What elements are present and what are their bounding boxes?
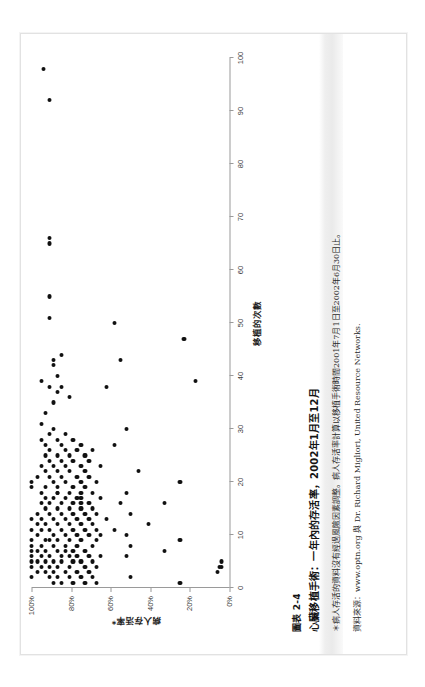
figure-number: 圖表 2-4 — [289, 60, 302, 632]
data-point — [39, 544, 43, 548]
data-point — [70, 501, 74, 505]
data-point — [90, 544, 94, 548]
data-point — [43, 443, 47, 447]
data-point — [47, 528, 51, 532]
data-point — [70, 459, 74, 463]
y-tick — [189, 588, 190, 592]
data-point — [29, 528, 33, 532]
data-point — [43, 506, 47, 510]
figure-title: 心臟移植手術：一年內的存活率，2002年1月至12月 — [305, 60, 320, 632]
data-point — [59, 512, 63, 516]
data-point — [177, 538, 181, 542]
data-point — [63, 544, 67, 548]
data-point — [78, 464, 82, 468]
data-point — [82, 549, 86, 553]
data-point — [78, 491, 82, 495]
data-point — [55, 549, 59, 553]
data-point — [104, 517, 108, 521]
data-point — [74, 475, 78, 479]
data-point — [55, 438, 59, 442]
y-tick-label: 0% — [225, 596, 234, 607]
data-point — [90, 491, 94, 495]
data-point — [39, 528, 43, 532]
data-point — [78, 480, 82, 484]
x-tick — [229, 269, 233, 270]
data-point — [74, 544, 78, 548]
data-point — [47, 385, 51, 389]
y-tick-label: 100% — [27, 596, 36, 615]
x-tick-label: 90 — [235, 107, 244, 115]
data-point — [43, 549, 47, 553]
data-point — [51, 400, 55, 404]
data-point — [78, 496, 82, 500]
data-point — [86, 570, 90, 574]
data-point — [35, 570, 39, 574]
data-point — [219, 559, 223, 563]
data-point — [55, 374, 59, 378]
data-point — [70, 512, 74, 516]
x-axis-title: 移植的次數 — [249, 58, 261, 588]
x-tick-label: 70 — [235, 213, 244, 221]
x-tick-label: 80 — [235, 160, 244, 168]
data-point — [29, 559, 33, 563]
data-point — [39, 501, 43, 505]
data-point — [39, 422, 43, 426]
data-point — [78, 501, 82, 505]
x-tick-label: 20 — [235, 478, 244, 486]
data-point — [78, 506, 82, 510]
data-point — [59, 459, 63, 463]
data-point — [59, 385, 63, 389]
data-point — [51, 496, 55, 500]
data-point — [98, 533, 102, 537]
data-point — [29, 554, 33, 558]
data-point — [98, 496, 102, 500]
data-point — [118, 358, 122, 362]
data-point — [78, 538, 82, 542]
data-point — [124, 554, 128, 558]
data-point — [41, 67, 45, 71]
y-tick-label: 40% — [145, 596, 154, 611]
data-point — [63, 533, 67, 537]
data-point — [63, 496, 67, 500]
data-point — [47, 241, 51, 245]
data-point — [82, 485, 86, 489]
data-point — [128, 544, 132, 548]
x-tick-label: 10 — [235, 531, 244, 539]
data-point — [82, 581, 86, 585]
data-point — [51, 581, 55, 585]
data-point — [177, 480, 181, 484]
data-point — [104, 385, 108, 389]
figure-caption-block: 圖表 2-4 心臟移植手術：一年內的存活率，2002年1月至12月 ＊病人存活的… — [289, 60, 363, 632]
x-tick — [229, 163, 233, 164]
data-point — [70, 438, 74, 442]
data-point — [35, 533, 39, 537]
data-point — [39, 438, 43, 442]
x-tick-label: 60 — [235, 266, 244, 274]
data-point — [162, 549, 166, 553]
x-tick — [229, 534, 233, 535]
data-point — [59, 528, 63, 532]
data-point — [90, 559, 94, 563]
data-point — [39, 554, 43, 558]
data-point — [82, 565, 86, 569]
data-point — [67, 491, 71, 495]
data-point — [51, 533, 55, 537]
data-point — [59, 353, 63, 357]
data-point — [29, 565, 33, 569]
data-point — [78, 443, 82, 447]
data-point — [39, 491, 43, 495]
x-tick-label: 40 — [235, 372, 244, 380]
data-point — [55, 491, 59, 495]
x-tick-label: 30 — [235, 425, 244, 433]
data-point — [51, 517, 55, 521]
data-point — [124, 427, 128, 431]
data-point — [74, 533, 78, 537]
data-point — [51, 559, 55, 563]
data-point — [70, 559, 74, 563]
data-point — [82, 512, 86, 516]
data-point — [59, 581, 63, 585]
data-point — [43, 570, 47, 574]
data-point — [35, 512, 39, 516]
data-point — [47, 459, 51, 463]
data-point — [51, 464, 55, 468]
